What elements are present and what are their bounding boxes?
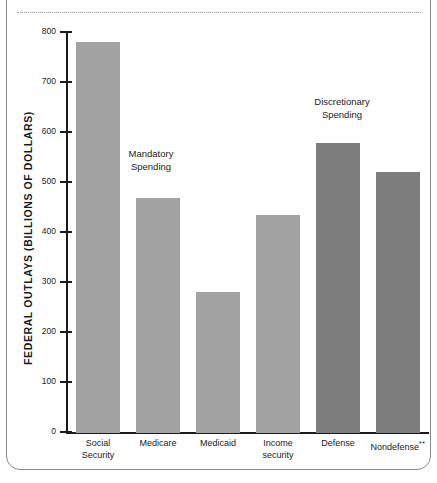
- annotation-line: Spending: [282, 109, 402, 122]
- y-tick-label-wrap: 800: [14, 27, 56, 37]
- y-tick-label-500: 500: [16, 177, 56, 186]
- y-tick-label-100: 100: [16, 377, 56, 386]
- chart-page: FEDERAL OUTLAYS (BILLIONS OF DOLLARS) 01…: [0, 0, 437, 483]
- y-tick-label-0: 0: [16, 427, 56, 436]
- y-tick-label-wrap: 0: [14, 427, 56, 437]
- annotation-discretionary-spending: DiscretionarySpending: [282, 96, 402, 121]
- category-label-nondefense: Nondefense**: [359, 438, 437, 454]
- y-tick-label-wrap: 700: [14, 77, 56, 87]
- y-tick-label-wrap: 300: [14, 277, 56, 287]
- bar-social-security[interactable]: [76, 42, 120, 434]
- y-tick-label-wrap: 600: [14, 127, 56, 137]
- category-label-line: Security: [59, 450, 137, 462]
- y-tick-label-wrap: 100: [14, 377, 56, 387]
- bars-container: [68, 32, 429, 433]
- bar-nondefense[interactable]: [376, 172, 420, 433]
- bar-slot: [68, 32, 128, 433]
- annotation-mandatory-spending: MandatorySpending: [96, 148, 206, 173]
- y-tick-label-300: 300: [16, 277, 56, 286]
- bar-slot: [308, 32, 368, 433]
- bar-slot: [368, 32, 428, 433]
- bar-slot: [188, 32, 248, 433]
- category-label-line: security: [239, 450, 317, 462]
- bar-slot: [248, 32, 308, 433]
- y-tick-label-200: 200: [16, 327, 56, 336]
- y-tick-label-600: 600: [16, 127, 56, 136]
- bar-medicaid[interactable]: [196, 292, 240, 433]
- y-tick-label-wrap: 500: [14, 177, 56, 187]
- bar-defense[interactable]: [316, 143, 360, 433]
- y-tick-label-wrap: 200: [14, 327, 56, 337]
- y-tick-label-wrap: 400: [14, 227, 56, 237]
- bar-slot: [128, 32, 188, 433]
- y-tick-label-700: 700: [16, 77, 56, 86]
- annotation-line: Spending: [96, 161, 206, 174]
- bar-medicare[interactable]: [136, 198, 180, 433]
- footnote-marker: **: [419, 440, 425, 447]
- y-tick-label-800: 800: [16, 27, 56, 36]
- annotation-line: Mandatory: [96, 148, 206, 161]
- category-label-line: Nondefense**: [359, 438, 437, 454]
- bar-chart: FEDERAL OUTLAYS (BILLIONS OF DOLLARS) 01…: [0, 0, 437, 483]
- bar-income-security[interactable]: [256, 215, 300, 434]
- annotation-line: Discretionary: [282, 96, 402, 109]
- y-tick-label-400: 400: [16, 227, 56, 236]
